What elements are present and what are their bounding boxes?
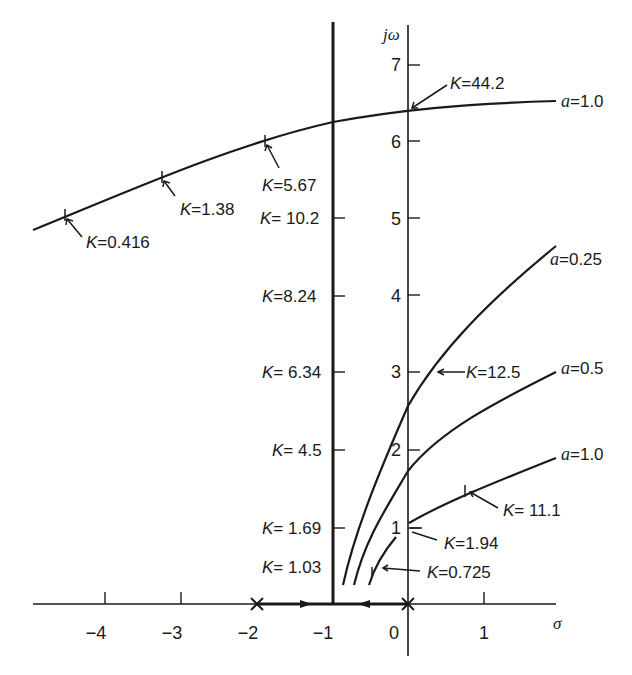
label-k-8-24: K=8.24 (262, 287, 316, 306)
vertical-locus-ticks (333, 218, 345, 528)
curve-alpha-1-lower-left (369, 537, 396, 585)
y-tick-labels: 1 2 3 4 5 6 7 (391, 55, 401, 538)
svg-text:−2: −2 (238, 623, 259, 643)
label-k-12-5: K=12.5 (466, 363, 520, 382)
arrow-right-icon (300, 600, 312, 608)
upper-curve-markers (65, 85, 447, 237)
x-axis-title: σ (553, 614, 562, 633)
svg-text:−1: −1 (313, 623, 334, 643)
label-alpha-0-5: a=0.5 (561, 358, 604, 378)
label-k-1-94: K=1.94 (444, 534, 498, 553)
label-alpha-1-lower: a=1.0 (561, 444, 604, 464)
label-k-1-38: K=1.38 (180, 200, 234, 219)
label-k-6-34: K= 6.34 (262, 363, 321, 382)
label-alpha-1-upper: a=1.0 (561, 91, 604, 111)
arrow-left-icon (358, 600, 370, 608)
x-tick-labels: −4 −3 −2 −1 0 1 (86, 623, 489, 643)
svg-text:3: 3 (391, 362, 401, 382)
label-k-44-2: K=44.2 (450, 74, 504, 93)
svg-text:0: 0 (389, 623, 399, 643)
root-locus-chart: −4 −3 −2 −1 0 1 1 2 3 4 5 6 7 jω σ a=1.0… (0, 0, 632, 675)
svg-text:1: 1 (391, 518, 401, 538)
svg-text:2: 2 (391, 440, 401, 460)
svg-text:4: 4 (391, 286, 401, 306)
label-k-5-67: K=5.67 (262, 176, 316, 195)
svg-text:−4: −4 (86, 623, 107, 643)
svg-text:−3: −3 (162, 623, 183, 643)
label-alpha-0-25: a=0.25 (550, 249, 602, 269)
label-k-4-5: K= 4.5 (272, 441, 322, 460)
svg-text:5: 5 (391, 209, 401, 229)
label-k-11-1: K= 11.1 (503, 501, 561, 520)
label-k-10-2: K= 10.2 (260, 209, 319, 228)
svg-text:7: 7 (391, 55, 401, 75)
label-k-0-725: K=0.725 (427, 563, 491, 582)
label-k-0-416: K=0.416 (86, 233, 150, 252)
label-k-1-03: K= 1.03 (262, 558, 321, 577)
svg-text:6: 6 (391, 132, 401, 152)
label-k-1-69: K= 1.69 (262, 519, 321, 538)
svg-text:1: 1 (479, 623, 489, 643)
y-axis-title: jω (381, 25, 400, 44)
x-ticks (105, 592, 484, 604)
